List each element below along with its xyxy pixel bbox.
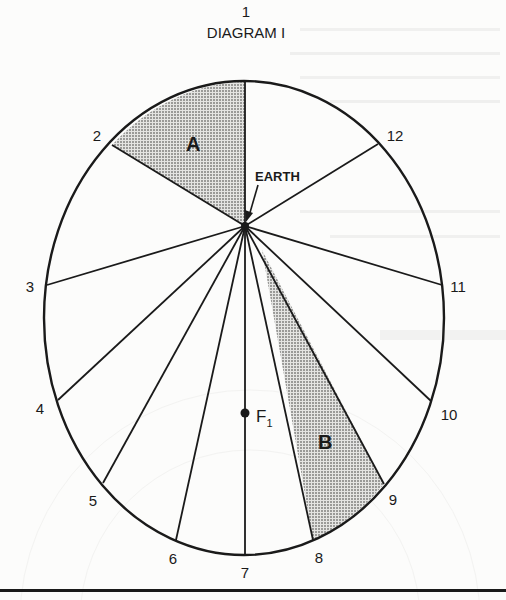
diagram-canvas: DIAGRAM I EARTH A B F1 1 2 3 4 5 6 7 8 9… bbox=[0, 0, 506, 600]
ray-3 bbox=[47, 226, 245, 285]
ray-10 bbox=[245, 226, 431, 401]
earth-arrow-icon bbox=[245, 185, 258, 222]
position-label-5: 5 bbox=[89, 492, 97, 509]
focus-point bbox=[241, 409, 250, 418]
region-b-shading bbox=[262, 250, 384, 540]
position-label-11: 11 bbox=[450, 278, 466, 295]
bleed-through-text bbox=[20, 28, 506, 600]
ray-4 bbox=[58, 226, 245, 400]
position-label-7: 7 bbox=[241, 564, 249, 581]
position-label-9: 9 bbox=[389, 491, 397, 508]
focus-label: F1 bbox=[256, 407, 273, 429]
earth-label: EARTH bbox=[255, 169, 300, 184]
bottom-rule bbox=[0, 589, 506, 592]
ray-5 bbox=[103, 226, 245, 483]
diagram-title: DIAGRAM I bbox=[207, 24, 285, 41]
position-label-2: 2 bbox=[93, 127, 101, 144]
region-b-label: B bbox=[318, 431, 332, 453]
ray-12 bbox=[245, 144, 378, 226]
position-label-10: 10 bbox=[441, 406, 458, 423]
position-label-12: 12 bbox=[387, 127, 404, 144]
position-label-1: 1 bbox=[242, 3, 250, 20]
position-label-4: 4 bbox=[36, 400, 44, 417]
region-a-shading bbox=[112, 82, 245, 226]
earth-point bbox=[241, 222, 249, 230]
position-label-8: 8 bbox=[315, 549, 323, 566]
position-label-6: 6 bbox=[169, 550, 177, 567]
position-label-3: 3 bbox=[26, 278, 34, 295]
ray-6 bbox=[176, 226, 245, 540]
region-a-label: A bbox=[186, 133, 200, 155]
